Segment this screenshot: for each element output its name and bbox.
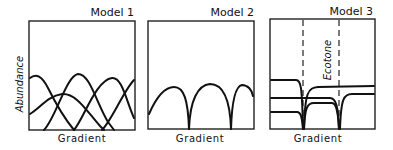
y-axis-label: Abundance xyxy=(14,56,25,113)
species-curve xyxy=(231,85,253,129)
species-curve xyxy=(340,94,374,129)
ecotone-label: Ecotone xyxy=(322,40,333,80)
plot-frame xyxy=(148,21,254,129)
x-axis-label: Gradient xyxy=(294,133,342,144)
panel-model-1: Model 1 Abundance Gradient xyxy=(14,6,135,144)
x-axis-label: Gradient xyxy=(176,133,224,144)
panel-title: Model 2 xyxy=(210,6,254,19)
diagram-canvas: Model 1 Abundance Gradient Model 2 Gradi… xyxy=(0,0,393,150)
species-curve xyxy=(271,80,303,129)
x-axis-label: Gradient xyxy=(58,133,106,144)
panel-title: Model 3 xyxy=(329,5,373,18)
species-curve xyxy=(304,103,339,129)
species-curve xyxy=(189,84,231,129)
species-curve xyxy=(74,78,134,130)
panel-model-2: Model 2 Gradient xyxy=(148,6,254,144)
species-curve xyxy=(271,112,303,129)
species-curve xyxy=(30,94,104,130)
species-curve xyxy=(149,87,189,129)
panel-title: Model 1 xyxy=(90,6,134,19)
panel-model-3: Model 3 Gradient Ecotone xyxy=(270,5,375,144)
